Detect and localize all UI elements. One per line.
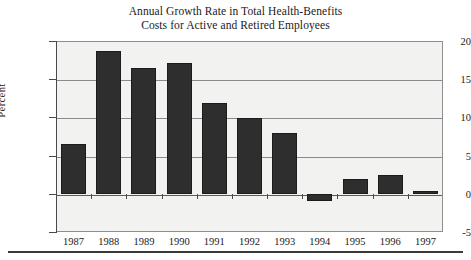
bar-1988: [96, 51, 121, 194]
bar-1995: [343, 179, 368, 194]
y-axis-tick: [49, 232, 56, 233]
x-axis-tick: [162, 194, 163, 199]
y-axis-line: [56, 41, 57, 233]
x-axis-tick: [197, 194, 198, 199]
x-axis-tick-label: 1993: [265, 236, 305, 247]
bottom-rule: [8, 251, 463, 253]
bar-1994: [307, 194, 332, 202]
x-axis-tick-label: 1988: [89, 236, 129, 247]
x-axis-tick-label: 1995: [335, 236, 375, 247]
x-axis-tick-label: 1992: [230, 236, 270, 247]
bar-1989: [131, 68, 156, 194]
chart-title-line-2: Costs for Active and Retired Employees: [0, 18, 471, 32]
x-axis-tick: [302, 194, 303, 199]
x-axis-tick: [267, 194, 268, 199]
y-axis-tick: [49, 41, 56, 42]
x-axis-tick-label: 1991: [194, 236, 234, 247]
bar-1997: [413, 191, 438, 194]
chart-title-line-1: Annual Growth Rate in Total Health-Benef…: [0, 4, 471, 18]
y-axis-tick-label: 5: [427, 150, 471, 161]
bar-1987: [61, 144, 86, 194]
x-axis-tick-label: 1990: [159, 236, 199, 247]
x-axis-tick-label: 1996: [370, 236, 410, 247]
x-axis-tick: [126, 194, 127, 199]
x-axis-tick: [337, 194, 338, 199]
x-axis-tick: [373, 194, 374, 199]
bar-1990: [167, 63, 192, 194]
y-axis-tick-label: 20: [427, 36, 471, 47]
zero-line: [57, 195, 442, 196]
y-axis-tick: [49, 194, 56, 195]
chart-title: Annual Growth Rate in Total Health-Benef…: [0, 4, 471, 32]
y-axis-tick: [49, 79, 56, 80]
y-axis-tick: [49, 156, 56, 157]
y-axis-title: Percent: [0, 83, 7, 117]
bar-1992: [237, 118, 262, 194]
x-axis-tick: [91, 194, 92, 199]
bar-1991: [202, 103, 227, 194]
bar-1996: [378, 175, 403, 193]
x-axis-tick-label: 1994: [300, 236, 340, 247]
y-axis-tick: [49, 117, 56, 118]
chart-figure: Annual Growth Rate in Total Health-Benef…: [0, 0, 471, 260]
x-axis-tick: [408, 194, 409, 199]
x-axis-tick-label: 1989: [124, 236, 164, 247]
x-axis-tick-label: 1997: [405, 236, 445, 247]
x-axis-tick: [232, 194, 233, 199]
x-axis-tick-label: 1987: [54, 236, 94, 247]
y-axis-tick-label: 10: [427, 112, 471, 123]
bar-1993: [272, 133, 297, 194]
y-axis-tick-label: 15: [427, 74, 471, 85]
